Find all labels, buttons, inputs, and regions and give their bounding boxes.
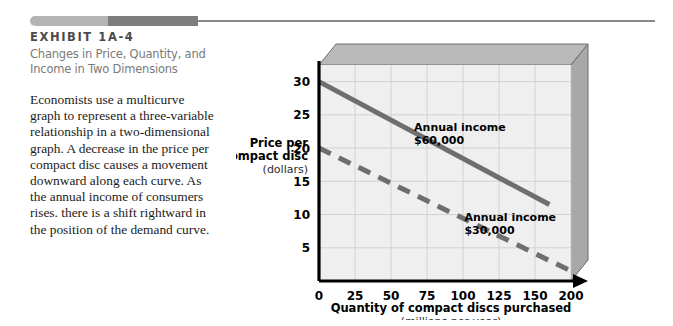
header-bar-dark-segment: [108, 16, 198, 26]
y-axis-tick-label: 10: [293, 208, 310, 222]
x-axis-tick-label: 0: [315, 289, 323, 303]
y-axis-title-line-1: Price per: [250, 136, 309, 150]
y-axis-tick-label: 5: [302, 241, 310, 255]
x-axis-title-text: Quantity of compact discs purchased: [331, 301, 572, 315]
y-axis-title: Price per compact disc (dollars): [236, 136, 308, 176]
chart-svg: 51015202530 0255075100125150200 Annual i…: [236, 20, 656, 320]
series-annotation-value: $30,000: [464, 224, 514, 237]
header-bar-light-segment: [30, 16, 108, 26]
y-axis-title-units: (dollars): [263, 163, 308, 176]
exhibit-subtitle-line-1: Changes in Price, Quantity, and: [30, 47, 225, 62]
x-axis-title: Quantity of compact discs purchased (mil…: [331, 301, 572, 320]
y-axis-title-line-2: compact disc: [236, 149, 308, 163]
series-annotation-value: $60,000: [414, 134, 464, 147]
y-axis-tick-label: 30: [293, 75, 310, 89]
exhibit-caption-column: EXHIBIT 1A-4 Changes in Price, Quantity,…: [30, 30, 225, 238]
chart-figure: 51015202530 0255075100125150200 Annual i…: [236, 20, 656, 320]
y-axis-tick-label: 25: [293, 108, 310, 122]
y-axis-tick-label: 15: [293, 175, 310, 189]
exhibit-subtitle-line-2: Income in Two Dimensions: [30, 62, 225, 77]
x-axis-arrowhead: [573, 274, 588, 288]
series-annotation-title: Annual income: [414, 121, 506, 134]
plot-background: [319, 65, 571, 281]
exhibit-body-text: Economists use a multicurve graph to rep…: [30, 92, 218, 238]
chart-box-side-panel: [571, 44, 588, 281]
chart-box-top-panel: [319, 44, 588, 65]
series-annotation-title: Annual income: [464, 211, 556, 224]
x-axis-title-units: (millions per year): [401, 315, 502, 320]
exhibit-title: EXHIBIT 1A-4: [30, 30, 225, 44]
exhibit-subtitle: Changes in Price, Quantity, and Income i…: [30, 47, 225, 76]
